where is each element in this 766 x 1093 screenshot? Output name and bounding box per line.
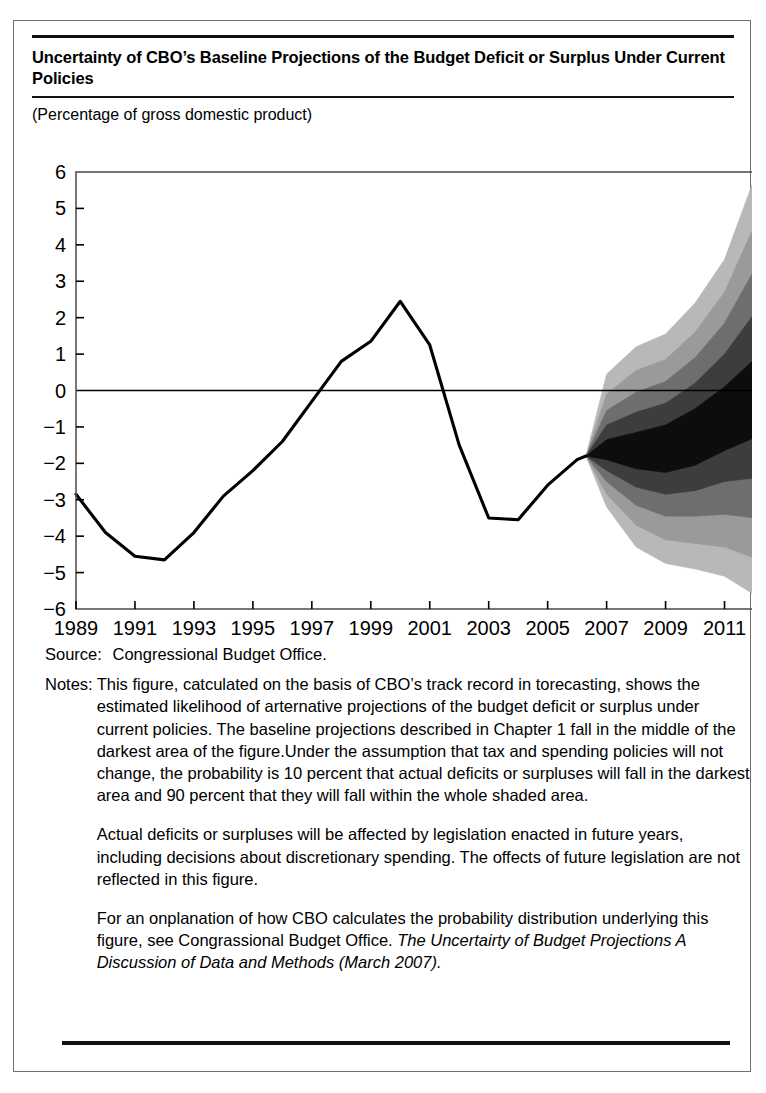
y-tick-label: −5 [43, 562, 66, 584]
figure-title: Uncertainty of CBO’s Baseline Projection… [32, 47, 734, 89]
note-paragraph: For an onplanation of how CBO calculates… [97, 907, 751, 974]
x-tick-label: 1993 [172, 617, 217, 638]
note-paragraph: This figure, catculated on the basis of … [97, 673, 751, 806]
y-tick-label: 6 [55, 161, 66, 183]
x-tick-label: 1991 [113, 617, 158, 638]
note-paragraph: Actual deficits or surpluses will be aff… [97, 823, 751, 890]
x-tick-label: 2009 [643, 617, 688, 638]
x-tick-label: 2001 [407, 617, 452, 638]
y-tick-label: −2 [43, 452, 66, 474]
y-tick-label: −1 [43, 416, 66, 438]
source-line: Source: Congressional Budget Office. [45, 643, 751, 665]
header-bottom-rule [32, 96, 734, 98]
figure-header: Uncertainty of CBO’s Baseline Projection… [32, 35, 734, 124]
figure-notes: Source: Congressional Budget Office. Not… [45, 643, 751, 973]
notes-block: Notes: This figure, catculated on the ba… [45, 673, 751, 973]
x-tick-label: 1989 [54, 617, 99, 638]
fan-chart: 6543210−1−2−3−4−5−6198919911993199519971… [27, 153, 752, 638]
notes-body: This figure, catculated on the basis of … [97, 673, 751, 973]
x-tick-label: 2005 [525, 617, 570, 638]
source-text: Congressional Budget Office. [112, 645, 326, 663]
y-tick-label: 2 [55, 307, 66, 329]
deficit-surplus-line [76, 301, 586, 560]
x-tick-label: 2007 [584, 617, 629, 638]
chart-canvas: 6543210−1−2−3−4−5−6198919911993199519971… [27, 153, 752, 638]
x-tick-label: 2003 [466, 617, 511, 638]
footer-rule [62, 1041, 730, 1045]
header-top-rule [32, 35, 734, 38]
y-tick-label: 1 [55, 343, 66, 365]
source-label: Source: [45, 645, 102, 663]
y-tick-label: 3 [55, 270, 66, 292]
notes-label: Notes: [45, 673, 93, 695]
fan-bands [586, 179, 752, 594]
x-axis: 1989199119931995199719992001200320052007… [54, 601, 746, 638]
y-tick-label: 0 [55, 380, 66, 402]
y-tick-label: −4 [43, 525, 66, 547]
x-tick-label: 1995 [231, 617, 276, 638]
y-tick-label: −3 [43, 489, 66, 511]
x-tick-label: 1999 [349, 617, 394, 638]
y-tick-label: 5 [55, 197, 66, 219]
figure-frame: Uncertainty of CBO’s Baseline Projection… [13, 20, 751, 1072]
x-tick-label: 2011 [703, 617, 746, 638]
figure-subtitle: (Percentage of gross domestic product) [32, 105, 734, 124]
x-tick-label: 1997 [290, 617, 335, 638]
y-tick-label: 4 [55, 234, 66, 256]
